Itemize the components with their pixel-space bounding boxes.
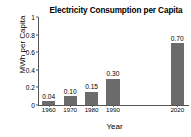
y-tick-label: 1 (31, 14, 35, 21)
y-tick-label: 0.8 (26, 31, 35, 38)
y-tick-label: 0 (31, 102, 35, 109)
y-tick-mark (36, 87, 38, 88)
bar-value-label: 0.10 (64, 88, 77, 95)
y-tick-mark (36, 69, 38, 70)
bar-value-label: 0.04 (42, 93, 55, 100)
y-axis-label: MWh per Capita (18, 0, 27, 90)
plot-area: 00.20.40.60.81 0.040.100.150.300.70 (38, 17, 188, 105)
bar: 0.15 (85, 92, 98, 105)
x-tick-mark (92, 105, 93, 107)
y-tick-label: 0.2 (26, 84, 35, 91)
x-tick-mark (49, 105, 50, 107)
bar: 0.10 (64, 96, 77, 105)
bar: 0.30 (106, 79, 119, 105)
chart-title: Electricity Consumption per Capita (44, 6, 188, 15)
x-tick-label: 1990 (106, 106, 120, 113)
y-tick-mark (36, 52, 38, 53)
x-tick-label: 1960 (42, 106, 56, 113)
x-tick-mark (177, 105, 178, 107)
y-tick-mark (36, 34, 38, 35)
x-tick-label: 2020 (170, 106, 184, 113)
y-tick-label: 0.6 (26, 49, 35, 56)
y-tick-mark (36, 17, 38, 18)
chart-figure: Electricity Consumption per Capita MWh p… (0, 0, 191, 137)
x-axis-label: Year (38, 122, 191, 131)
x-tick-mark (113, 105, 114, 107)
y-tick-label: 0.4 (26, 66, 35, 73)
x-tick-label: 1980 (85, 106, 99, 113)
y-tick-mark (36, 105, 38, 106)
bar: 0.70 (171, 43, 184, 105)
x-tick-mark (70, 105, 71, 107)
bar-value-label: 0.15 (85, 83, 98, 90)
x-tick-label: 1970 (63, 106, 77, 113)
bar-value-label: 0.30 (107, 70, 120, 77)
bar-value-label: 0.70 (171, 35, 184, 42)
